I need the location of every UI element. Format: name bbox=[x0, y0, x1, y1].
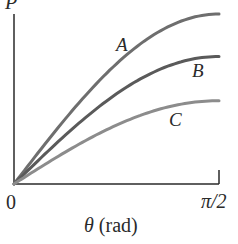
x-axis-label: θ (rad) bbox=[84, 214, 138, 237]
curve-c-label: C bbox=[169, 109, 182, 131]
curve-b-label: B bbox=[192, 60, 204, 82]
curve-a-label: A bbox=[116, 34, 128, 56]
theta-symbol: θ bbox=[84, 214, 94, 236]
origin-label: 0 bbox=[6, 191, 16, 214]
y-axis-label: P bbox=[5, 0, 17, 14]
x-end-label: π/2 bbox=[201, 190, 227, 213]
